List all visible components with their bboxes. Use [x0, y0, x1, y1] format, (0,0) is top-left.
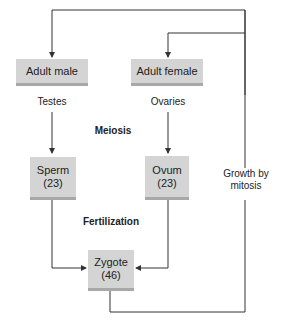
fertilization-label: Fertilization [80, 216, 142, 227]
adult-male-label: Adult male [26, 65, 78, 78]
ovum-node: Ovum (23) [145, 156, 189, 197]
ovum-label: Ovum [152, 164, 181, 177]
zygote-count: (46) [101, 269, 121, 282]
growth-line2: mitosis [220, 180, 272, 192]
zygote-label: Zygote [94, 256, 128, 269]
sperm-count: (23) [43, 177, 63, 190]
adult-male-node: Adult male [16, 59, 88, 83]
ovum-count: (23) [157, 177, 177, 190]
sperm-node: Sperm (23) [30, 157, 76, 197]
adult-female-node: Adult female [131, 59, 203, 83]
sperm-label: Sperm [37, 164, 69, 177]
zygote-node: Zygote (46) [88, 250, 134, 288]
growth-line1: Growth by [220, 168, 272, 180]
adult-female-label: Adult female [136, 65, 197, 78]
testes-label: Testes [30, 96, 74, 107]
ovaries-label: Ovaries [143, 96, 193, 107]
meiosis-label: Meiosis [88, 125, 138, 136]
growth-by-mitosis-label: Growth by mitosis [220, 168, 272, 192]
